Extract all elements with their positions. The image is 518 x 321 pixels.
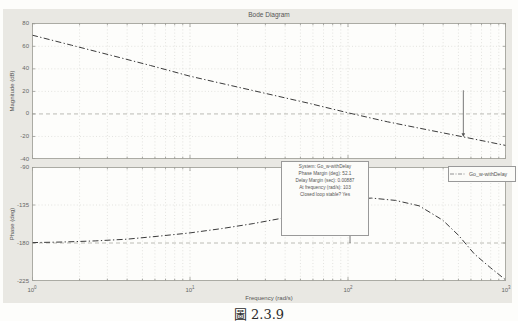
chart-title: Bode Diagram: [32, 11, 506, 18]
figure-caption: 圖 2.3.9: [0, 304, 518, 321]
annotation-phase-margin: Phase Margin (deg): 52.1: [282, 170, 368, 177]
magnitude-plot: [32, 23, 506, 159]
legend-label: Go_w-withDelay: [469, 171, 507, 177]
phase-axis-label: Phase (deg): [9, 208, 15, 241]
legend: Go_w-withDelay: [448, 166, 516, 182]
frequency-axis-label: Frequency (rad/s): [32, 295, 506, 301]
annotation-delay-margin: Delay Margin (sec): 0.00887: [282, 177, 368, 184]
annotation-stability: Closed loop stable? Yes: [282, 191, 368, 198]
legend-line-sample: [449, 172, 467, 176]
annotation-system-line: System: Go_w-withDelay: [282, 163, 368, 170]
phase-plot: [32, 167, 506, 281]
magnitude-axis-label: Magnitude (dB): [9, 70, 15, 111]
margin-annotation: System: Go_w-withDelay Phase Margin (deg…: [281, 161, 369, 236]
annotation-frequency: At frequency (rad/s): 103: [282, 184, 368, 191]
bode-figure: Bode Diagram Magnitude (dB) Phase (deg) …: [0, 0, 518, 321]
